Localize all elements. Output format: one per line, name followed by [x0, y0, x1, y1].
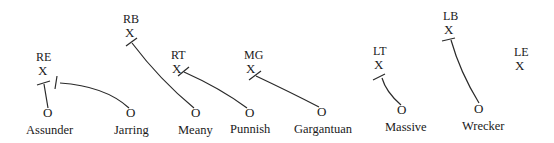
blocker-name-punnish: Punnish	[230, 122, 271, 136]
blocker-name-assunder: Assunder	[26, 123, 74, 137]
block-end-wrecker	[442, 38, 455, 41]
block-line-punnish	[184, 72, 247, 108]
block-line-wrecker	[451, 40, 479, 103]
blocker-name-meany: Meany	[178, 123, 213, 137]
defender-mark-rb: X	[125, 25, 135, 40]
block-line-jarring	[60, 83, 129, 108]
blocker-name-gargantuan: Gargantuan	[294, 122, 353, 136]
blocker-mark-wrecker: O	[474, 101, 483, 116]
blocker-mark-assunder: O	[43, 105, 52, 120]
defender-label-rb: RB	[123, 12, 139, 26]
block-line-massive	[382, 78, 401, 105]
defender-mark-le: X	[515, 58, 525, 73]
block-end-massive	[373, 74, 385, 80]
blocking-diagram: RE X RB X RT X MG X LT X LB X LE X O Ass…	[0, 0, 554, 143]
defender-label-rt: RT	[171, 48, 186, 62]
block-end-jarring	[55, 76, 57, 89]
defender-mark-lb: X	[444, 22, 454, 37]
blocker-mark-meany: O	[191, 105, 200, 120]
defender-mark-mg: X	[246, 61, 256, 76]
blocker-mark-gargantuan: O	[317, 104, 326, 119]
blocker-name-wrecker: Wrecker	[462, 119, 505, 133]
defender-label-re: RE	[36, 50, 51, 64]
defender-mark-lt: X	[374, 57, 384, 72]
blocker-mark-jarring: O	[126, 105, 135, 120]
defender-label-lt: LT	[373, 44, 387, 58]
defender-mark-re: X	[38, 63, 48, 78]
blocker-mark-punnish: O	[245, 105, 254, 120]
defender-label-lb: LB	[443, 9, 458, 23]
block-line-gargantuan	[256, 76, 319, 107]
blocker-mark-massive: O	[397, 102, 406, 117]
defender-label-mg: MG	[244, 48, 264, 62]
blocker-name-jarring: Jarring	[114, 123, 149, 137]
defender-label-le: LE	[514, 45, 529, 59]
blocker-name-massive: Massive	[385, 120, 427, 134]
